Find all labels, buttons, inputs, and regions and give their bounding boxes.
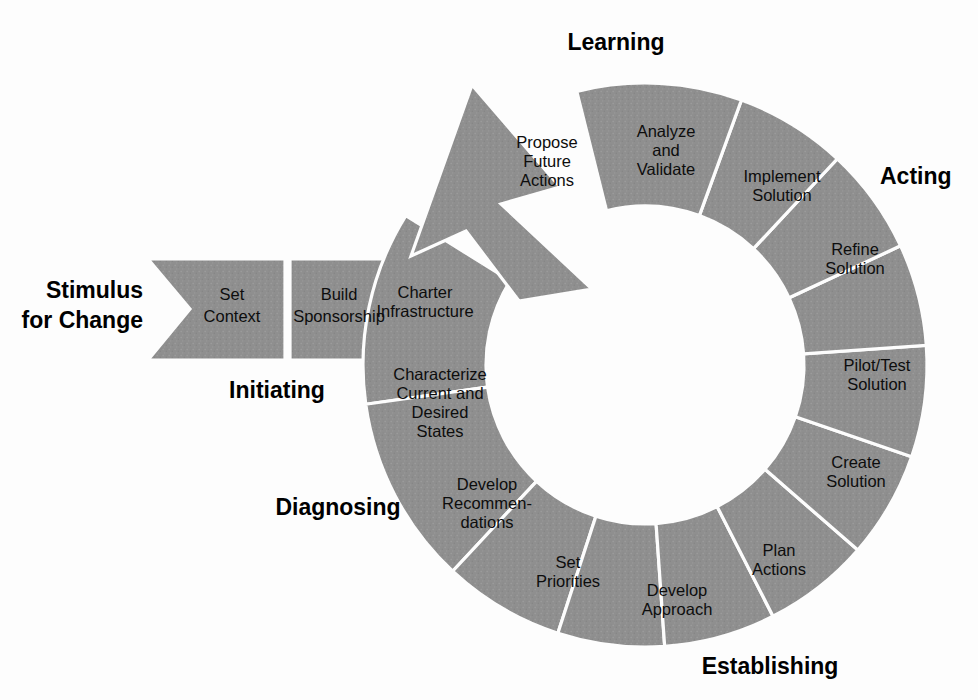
segment-label-plan-actions: Actions: [752, 560, 806, 578]
segment-label-refine-solution: Solution: [825, 259, 885, 277]
diagram-canvas: CharterInfrastructureCharacterizeCurrent…: [0, 0, 978, 700]
segment-label-create-solution: Solution: [826, 472, 886, 490]
segment-label-implement-solution: Implement: [743, 167, 820, 185]
segment-label-create-solution: Create: [831, 453, 881, 471]
segment-label-analyze-and-validate: Validate: [637, 160, 695, 178]
tail-label-set-context: Context: [204, 307, 261, 325]
segment-label-characterize-states: Current and: [396, 384, 483, 402]
phase-label-learning: Learning: [567, 29, 664, 55]
segment-label-characterize-states: States: [417, 422, 464, 440]
segment-label-set-priorities: Set: [556, 553, 581, 571]
segment-label-set-priorities: Priorities: [536, 572, 600, 590]
segment-label-propose-future-actions: Propose: [516, 133, 577, 151]
segment-label-characterize-states: Desired: [412, 403, 469, 421]
phase-label-diagnosing: Diagnosing: [275, 494, 400, 520]
segment-label-propose-future-actions: Actions: [520, 171, 574, 189]
segment-label-develop-approach: Approach: [642, 600, 713, 618]
phase-label-establishing: Establishing: [702, 653, 839, 679]
segment-label-plan-actions: Plan: [762, 541, 795, 559]
segment-label-characterize-states: Characterize: [393, 365, 487, 383]
phase-label-acting: Acting: [880, 163, 952, 189]
phase-label-initiating: Initiating: [229, 377, 325, 403]
stimulus-line-2: for Change: [22, 307, 143, 333]
segment-label-propose-future-actions: Future: [523, 152, 571, 170]
segment-label-develop-recommendations: Develop: [457, 475, 518, 493]
segment-label-analyze-and-validate: and: [652, 141, 680, 159]
segment-label-pilot-test-solution: Pilot/Test: [844, 356, 911, 374]
segment-label-develop-approach: Develop: [647, 581, 708, 599]
segment-label-charter-infrastructure: Infrastructure: [376, 302, 473, 320]
segment-label-implement-solution: Solution: [752, 186, 812, 204]
change-cycle-diagram: CharterInfrastructureCharacterizeCurrent…: [0, 0, 978, 700]
segment-label-pilot-test-solution: Solution: [847, 375, 907, 393]
tail-label-set-context: Set: [220, 285, 245, 303]
segment-label-charter-infrastructure: Charter: [397, 283, 453, 301]
segment-label-refine-solution: Refine: [831, 240, 879, 258]
segment-label-develop-recommendations: dations: [460, 513, 513, 531]
segment-label-analyze-and-validate: Analyze: [637, 122, 696, 140]
tail-label-build-sponsorship: Build: [321, 285, 358, 303]
tail-label-build-sponsorship: Sponsorship: [293, 307, 385, 325]
stimulus-line-1: Stimulus: [46, 277, 143, 303]
segment-label-develop-recommendations: Recommen-: [442, 494, 532, 512]
stimulus-for-change-label: Stimulus for Change: [22, 277, 143, 333]
